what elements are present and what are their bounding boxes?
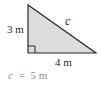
triangle-shape [28,5,96,53]
horizontal-leg-label: 4 m [55,56,72,68]
vertical-leg-label: 3 m [7,23,24,35]
answer-text: c = 5 m [8,69,48,81]
answer-equals: = [19,69,25,81]
answer-variable: c [8,69,13,81]
right-triangle-diagram: 3 m 4 m c c = 5 m [0,0,101,86]
answer-value: 5 m [31,69,48,81]
hypotenuse-label: c [65,14,71,28]
